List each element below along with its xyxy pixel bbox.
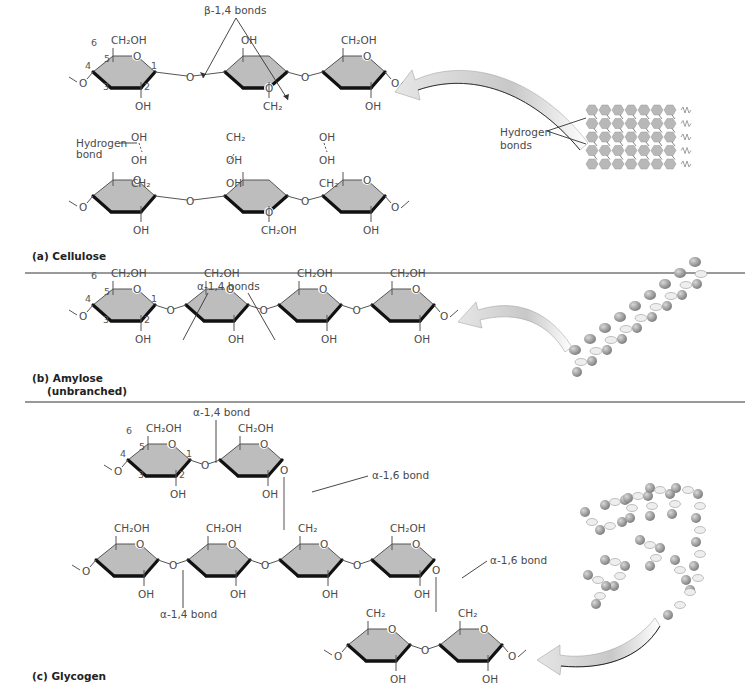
chem-label: OH (319, 154, 335, 166)
chem-label: O (79, 310, 87, 322)
chem-label: 5 (139, 441, 145, 452)
chem-label: OH (131, 154, 147, 166)
polysaccharide-figure: OOOOOOOOOOOOOOOOOO CH₂OHOHOHCH₂CH₂OHOH65… (0, 0, 750, 698)
svg-text:O: O (319, 283, 327, 295)
chem-label: CH₂ (458, 607, 477, 619)
glycosidic-oxygen: O (261, 559, 269, 571)
chem-label: OH (414, 588, 430, 600)
panel-c-title: (c) Glycogen (32, 670, 106, 682)
svg-text:O: O (412, 283, 420, 295)
panel-b-subtitle: (unbranched) (47, 385, 127, 397)
beta-bonds-label: β-1,4 bonds (204, 4, 266, 16)
glycosidic-oxygen: O (186, 195, 194, 207)
glycosidic-oxygen: O (186, 71, 194, 83)
hydrogen-bonds-label-1: Hydrogen (500, 126, 551, 138)
glycogen-branched-model (580, 483, 706, 620)
chem-label: CH₂OH (206, 522, 242, 534)
chem-label: CH₂ (263, 100, 282, 112)
curved-arrow-c (537, 618, 660, 675)
panel-a-title: (a) Cellulose (32, 250, 106, 262)
chem-label: OH (321, 333, 337, 345)
chem-label: OH (131, 131, 147, 143)
glucose-ring: O (440, 621, 502, 671)
chem-label: OH (262, 488, 278, 500)
chem-label: O (79, 77, 87, 89)
glycosidic-oxygen: O (421, 644, 429, 656)
chem-label: O (280, 464, 288, 476)
chem-label: OH (228, 333, 244, 345)
svg-text:O: O (388, 623, 396, 635)
chem-label: OH (226, 154, 242, 166)
chem-label: O (391, 77, 399, 89)
svg-text:O: O (363, 50, 371, 62)
chem-label: CH₂OH (238, 422, 274, 434)
chem-label: OH (482, 673, 498, 685)
svg-text:O: O (363, 174, 371, 186)
glucose-ring: O (279, 281, 341, 331)
svg-text:O: O (228, 538, 236, 550)
chem-label: OH (135, 333, 151, 345)
glucose-ring: O (372, 536, 434, 586)
chem-label: CH₂ (366, 607, 385, 619)
chem-label: CH₂OH (146, 422, 182, 434)
chem-label: O (79, 201, 87, 213)
chem-label: CH₂OH (111, 34, 147, 46)
chem-label: OH (390, 673, 406, 685)
glucose-ring: O (188, 536, 250, 586)
chem-label: O (334, 650, 342, 662)
glucose-ring: O (348, 621, 410, 671)
chem-label: OH (414, 333, 430, 345)
chem-label: CH₂OH (297, 267, 333, 279)
svg-text:O: O (320, 538, 328, 550)
glycosidic-oxygen: O (301, 195, 309, 207)
svg-text:O: O (168, 438, 176, 450)
chem-label: OH (230, 588, 246, 600)
chem-label: CH₂ (226, 131, 245, 143)
chem-label: CH₂ (131, 177, 150, 189)
chem-label: 3 (103, 314, 109, 325)
hydrogen-bonds-label-2: bonds (500, 139, 532, 151)
glucose-ring: O (220, 436, 282, 486)
curved-arrow-b (458, 302, 572, 352)
amylose-helix-model (569, 257, 707, 377)
curved-arrow-a (395, 70, 588, 150)
svg-text:O: O (480, 623, 488, 635)
chem-label: OH (138, 588, 154, 600)
chem-label: 2 (179, 469, 185, 480)
chem-label: O (432, 564, 440, 576)
alpha-14-bond-top-label: α-1,4 bond (193, 406, 250, 418)
glycosidic-oxygen: O (353, 304, 361, 316)
chem-label: CH₂OH (390, 522, 426, 534)
chem-label: 6 (91, 37, 97, 48)
chem-label: 1 (186, 448, 192, 459)
chem-label: O (391, 201, 399, 213)
chem-label: 2 (144, 81, 150, 92)
chem-label: CH₂OH (261, 224, 297, 236)
chem-label: CH₂OH (341, 34, 377, 46)
chem-label: OH (135, 100, 151, 112)
glycosidic-oxygen: O (201, 459, 209, 471)
glucose-ring: O (280, 536, 342, 586)
panel-b-title: (b) Amylose (32, 372, 103, 384)
chem-label: 4 (85, 293, 91, 304)
alpha-bonds-label: α-1,4 bonds (197, 280, 260, 292)
glycosidic-oxygen: O (301, 71, 309, 83)
chem-label: 5 (104, 53, 110, 64)
svg-text:O: O (133, 283, 141, 295)
alpha-14-bond-bottom-label: α-1,4 bond (160, 608, 217, 620)
chem-label: O (82, 565, 90, 577)
cellulose-sheet-model (586, 105, 691, 169)
chem-label: CH₂OH (390, 267, 426, 279)
svg-text:O: O (412, 538, 420, 550)
chem-label: CH₂OH (204, 267, 240, 279)
chem-label: CH₂OH (114, 522, 150, 534)
chem-label: OH (226, 177, 242, 189)
svg-text:O: O (260, 438, 268, 450)
svg-text:O: O (136, 538, 144, 550)
chemical-labels: CH₂OHOHOHCH₂CH₂OHOH654321OOOOOHOHCH₂CH₂O… (79, 34, 516, 685)
glucose-ring: O (225, 48, 287, 98)
chem-label: OH (319, 131, 335, 143)
chem-label: 2 (144, 314, 150, 325)
alpha-16-bond-bottom-label: α-1,6 bond (490, 554, 547, 566)
svg-text:O: O (133, 50, 141, 62)
